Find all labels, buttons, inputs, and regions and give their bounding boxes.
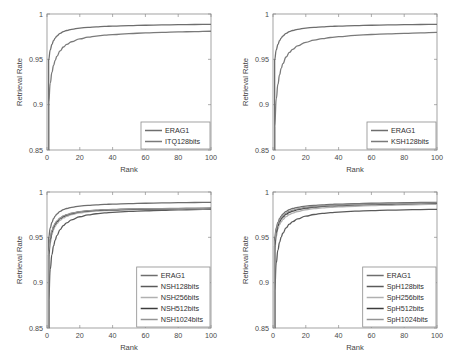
x-tick-label: 40 <box>109 153 117 162</box>
legend-label-SpH512bits: SpH512bits <box>387 304 425 313</box>
panel-top-left-legend: ERAG1ITQ128bits <box>141 122 210 149</box>
x-tick-label: 100 <box>205 331 217 340</box>
panel-bottom-right-svg: 0204060801000.850.90.951RankRetrieval Ra… <box>226 178 452 355</box>
y-axis-title: Retrieval Rate <box>15 58 24 106</box>
x-tick-label: 60 <box>367 331 375 340</box>
legend-label-ERAG1: ERAG1 <box>165 126 189 135</box>
legend-label-ERAG1: ERAG1 <box>391 126 415 135</box>
x-tick-label: 0 <box>45 153 49 162</box>
x-axis-title: Rank <box>120 343 138 352</box>
x-tick-label: 40 <box>335 331 343 340</box>
x-tick-label: 100 <box>431 153 443 162</box>
x-tick-label: 60 <box>141 153 149 162</box>
y-tick-label: 0.95 <box>29 233 43 242</box>
y-tick-label: 0.85 <box>29 146 43 155</box>
y-tick-label: 0.9 <box>33 100 43 109</box>
legend-label-KSH128bits: KSH128bits <box>391 137 429 146</box>
panel-top-right-legend: ERAG1KSH128bits <box>367 122 436 149</box>
panel-top-right-svg: 0204060801000.850.90.951RankRetrieval Ra… <box>226 0 452 177</box>
y-tick-label: 1 <box>39 188 43 197</box>
panel-top-left-svg: 0204060801000.850.90.951RankRetrieval Ra… <box>0 0 226 177</box>
panel-bottom-right-legend: ERAG1SpH128bitsSpH256bitsSpH512bitsSpH10… <box>363 267 436 327</box>
x-tick-label: 80 <box>174 153 182 162</box>
y-axis-title: Retrieval Rate <box>241 236 250 284</box>
y-axis-title: Retrieval Rate <box>15 236 24 284</box>
y-tick-label: 1 <box>265 10 269 19</box>
x-tick-label: 0 <box>271 331 275 340</box>
legend-label-SpH256bits: SpH256bits <box>387 293 425 302</box>
panel-bottom-left-svg: 0204060801000.850.90.951RankRetrieval Ra… <box>0 178 226 355</box>
x-tick-label: 100 <box>431 331 443 340</box>
x-tick-label: 20 <box>76 331 84 340</box>
x-tick-label: 20 <box>76 153 84 162</box>
figure-canvas: 0204060801000.850.90.951RankRetrieval Ra… <box>0 0 452 355</box>
x-tick-label: 80 <box>174 331 182 340</box>
chart-panel-bottom-right: 0204060801000.850.90.951RankRetrieval Ra… <box>226 178 452 355</box>
y-tick-label: 0.9 <box>259 278 269 287</box>
y-tick-label: 0.95 <box>255 233 269 242</box>
legend-label-SpH1024bits: SpH1024bits <box>387 315 429 324</box>
y-tick-label: 0.9 <box>259 100 269 109</box>
x-tick-label: 0 <box>45 331 49 340</box>
y-tick-label: 0.85 <box>255 146 269 155</box>
x-tick-label: 20 <box>302 331 310 340</box>
x-tick-label: 0 <box>271 153 275 162</box>
x-axis-title: Rank <box>346 165 364 174</box>
x-axis-title: Rank <box>346 343 364 352</box>
legend-label-SpH128bits: SpH128bits <box>387 282 425 291</box>
y-tick-label: 0.85 <box>255 324 269 333</box>
y-tick-label: 1 <box>39 10 43 19</box>
x-axis-title: Rank <box>120 165 138 174</box>
y-tick-label: 0.95 <box>29 55 43 64</box>
x-tick-label: 80 <box>400 153 408 162</box>
y-tick-label: 0.9 <box>33 278 43 287</box>
y-axis-title: Retrieval Rate <box>241 58 250 106</box>
legend-label-NSH1024bits: NSH1024bits <box>161 315 204 324</box>
x-tick-label: 60 <box>367 153 375 162</box>
legend-label-ERAG1: ERAG1 <box>161 271 185 280</box>
x-tick-label: 60 <box>141 331 149 340</box>
x-tick-label: 80 <box>400 331 408 340</box>
x-tick-label: 40 <box>335 153 343 162</box>
legend-label-ERAG1: ERAG1 <box>387 271 411 280</box>
legend-label-NSH128bits: NSH128bits <box>161 282 200 291</box>
panel-bottom-left-legend: ERAG1NSH128bitsNSH256bitsNSH512bitsNSH10… <box>137 267 210 327</box>
chart-panel-top-right: 0204060801000.850.90.951RankRetrieval Ra… <box>226 0 452 177</box>
x-tick-label: 100 <box>205 153 217 162</box>
y-tick-label: 1 <box>265 188 269 197</box>
x-tick-label: 20 <box>302 153 310 162</box>
legend-label-ITQ128bits: ITQ128bits <box>165 137 201 146</box>
legend-label-NSH256bits: NSH256bits <box>161 293 200 302</box>
chart-panel-bottom-left: 0204060801000.850.90.951RankRetrieval Ra… <box>0 178 226 355</box>
y-tick-label: 0.85 <box>29 324 43 333</box>
chart-panel-top-left: 0204060801000.850.90.951RankRetrieval Ra… <box>0 0 226 177</box>
legend-label-NSH512bits: NSH512bits <box>161 304 200 313</box>
x-tick-label: 40 <box>109 331 117 340</box>
y-tick-label: 0.95 <box>255 55 269 64</box>
